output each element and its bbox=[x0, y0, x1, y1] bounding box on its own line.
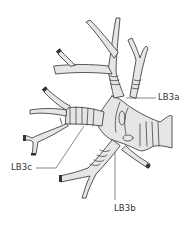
label-lb3a: LB3a bbox=[158, 93, 180, 102]
bronchial-tree-diagram bbox=[0, 0, 191, 226]
main-bronchus-body bbox=[96, 96, 172, 151]
label-lb3b: LB3b bbox=[114, 204, 136, 213]
lb3c-upper-twig bbox=[44, 89, 70, 110]
lb3c-lower-branch bbox=[24, 124, 68, 154]
label-lb3c: LB3c bbox=[11, 163, 32, 172]
upper-horizontal-twig bbox=[58, 51, 75, 66]
upper-branch-vertical bbox=[108, 18, 124, 98]
lb3c-left-twig bbox=[30, 109, 66, 117]
upper-horizontal-branch bbox=[54, 65, 112, 75]
bronchial-tree bbox=[23, 18, 172, 198]
leader-line-lb3c bbox=[36, 126, 84, 168]
lb3c-branch bbox=[66, 107, 104, 126]
